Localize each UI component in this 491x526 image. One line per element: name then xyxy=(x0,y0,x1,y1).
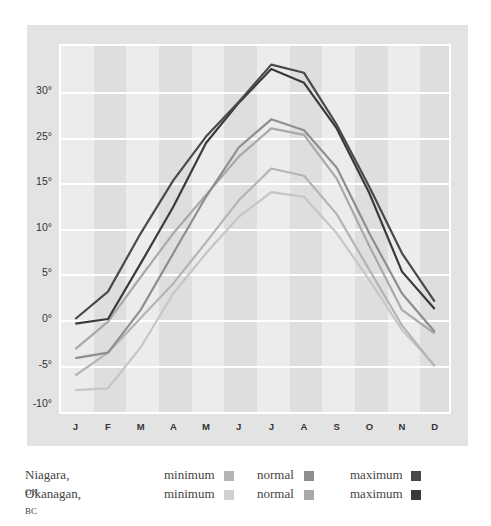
series-line xyxy=(75,69,434,324)
legend-swatch-okanagan-normal xyxy=(304,490,314,500)
legend-label-niagara-minimum: minimum xyxy=(164,467,215,483)
legend-swatch-niagara-normal xyxy=(304,471,314,481)
line-series xyxy=(0,0,491,526)
legend-label-okanagan-normal: normal xyxy=(257,486,294,502)
series-line xyxy=(75,119,434,358)
legend-swatch-okanagan-minimum xyxy=(224,490,234,500)
legend-label-okanagan-minimum: minimum xyxy=(164,486,215,502)
series-line xyxy=(75,128,434,349)
legend-label-niagara-normal: normal xyxy=(257,467,294,483)
legend-label-okanagan-maximum: maximum xyxy=(350,486,403,502)
series-line xyxy=(75,169,434,376)
legend-place-okanagan: Okanagan, bc xyxy=(25,486,81,518)
legend-swatch-niagara-maximum xyxy=(411,471,421,481)
legend-label-niagara-maximum: maximum xyxy=(350,467,403,483)
legend-swatch-niagara-minimum xyxy=(224,471,234,481)
legend-swatch-okanagan-maximum xyxy=(411,490,421,500)
